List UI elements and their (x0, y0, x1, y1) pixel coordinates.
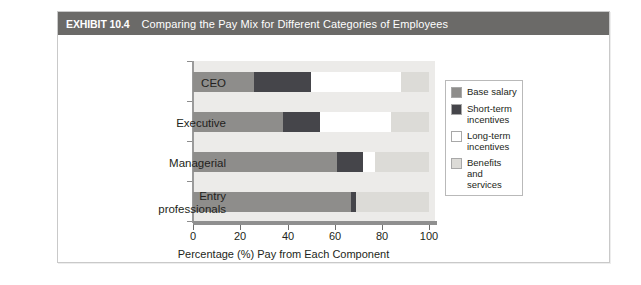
exhibit-card: EXHIBIT 10.4 Comparing the Pay Mix for D… (57, 11, 610, 263)
chart-legend: Base salary Short-term incentives Long-t… (445, 80, 523, 196)
legend-label-line2: incentives (467, 114, 512, 125)
category-label-managerial: Managerial (76, 157, 226, 170)
legend-item-benefits-and-services: Benefits and services (451, 157, 518, 190)
bar-segment-benefits-and-services (356, 192, 429, 212)
x-axis-label-40: 40 (268, 230, 308, 242)
x-axis-label-20: 20 (220, 230, 260, 242)
legend-label-benefits-and-services: Benefits and services (467, 157, 518, 190)
legend-label-line2: incentives (467, 141, 510, 152)
y-axis-tick (187, 61, 192, 62)
plot-area-overhang (429, 61, 435, 221)
legend-swatch-benefits-and-services (451, 158, 462, 169)
legend-label-short-term-incentives: Short-term incentives (467, 103, 512, 125)
category-label-text: Executive (176, 117, 226, 129)
x-axis-label-100: 100 (409, 230, 449, 242)
bar-segment-long-term-incentives (320, 112, 391, 132)
bar-entry-professionals (193, 192, 429, 212)
bar-segment-benefits-and-services (375, 152, 429, 172)
y-axis-tick (187, 221, 192, 222)
bar-segment-benefits-and-services (401, 72, 429, 92)
exhibit-number: EXHIBIT 10.4 (66, 18, 130, 30)
legend-item-short-term-incentives: Short-term incentives (451, 103, 518, 125)
exhibit-header: EXHIBIT 10.4 Comparing the Pay Mix for D… (58, 12, 609, 35)
y-axis-tick (187, 181, 192, 182)
x-axis-line (193, 221, 437, 225)
chart-figure: CEO Executive Managerial Entry professio… (58, 35, 609, 264)
exhibit-title: Comparing the Pay Mix for Different Cate… (142, 18, 449, 30)
category-label-text: Managerial (169, 157, 226, 169)
category-label-text: CEO (201, 77, 226, 89)
legend-item-base-salary: Base salary (451, 86, 518, 98)
bar-segment-short-term-incentives (254, 72, 311, 92)
legend-swatch-short-term-incentives (451, 104, 462, 115)
bar-executive (193, 112, 429, 132)
category-label-text-line1: Entry (76, 190, 226, 203)
legend-label-line1: Long-term (467, 130, 510, 141)
category-label-text-line2: professionals (76, 203, 226, 216)
legend-swatch-long-term-incentives (451, 131, 462, 142)
y-axis-tick (187, 101, 192, 102)
legend-swatch-base-salary (451, 87, 462, 98)
bar-segment-long-term-incentives (363, 152, 375, 172)
x-axis-label-80: 80 (362, 230, 402, 242)
bar-segment-short-term-incentives (337, 152, 363, 172)
x-axis-label-0: 0 (173, 230, 213, 242)
legend-label-line1: Short-term (467, 103, 512, 114)
category-label-entry-professionals: Entry professionals (76, 190, 226, 216)
legend-label-long-term-incentives: Long-term incentives (467, 130, 510, 152)
category-label-executive: Executive (76, 117, 226, 130)
x-axis-label-60: 60 (315, 230, 355, 242)
legend-item-long-term-incentives: Long-term incentives (451, 130, 518, 152)
legend-label-line1: Benefits and (467, 157, 518, 179)
legend-label-line2: services (467, 179, 518, 190)
bar-segment-short-term-incentives (283, 112, 321, 132)
bar-managerial (193, 152, 429, 172)
legend-label-base-salary: Base salary (467, 86, 517, 97)
x-axis-title: Percentage (%) Pay from Each Component (8, 248, 559, 260)
bar-segment-benefits-and-services (391, 112, 429, 132)
legend-label-line1: Base salary (467, 86, 517, 97)
exhibit-figure: EXHIBIT 10.4 Comparing the Pay Mix for D… (0, 0, 641, 285)
bar-ceo (193, 72, 429, 92)
category-label-ceo: CEO (76, 77, 226, 90)
y-axis-tick (187, 141, 192, 142)
bar-segment-long-term-incentives (311, 72, 401, 92)
